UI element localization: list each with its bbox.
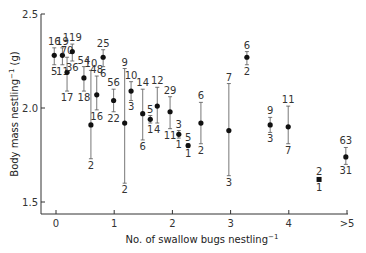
sample-size-bottom-label: 11 [164,130,177,141]
data-point-marker [186,143,191,148]
x-axis-label: No. of swallow bugs nestling−1 [126,233,279,245]
data-point-marker [111,98,116,103]
data-point-group: 62 [244,40,250,77]
x-axis-label-sup: −1 [268,233,278,241]
sample-size-top-label: 6 [198,90,204,101]
sample-size-top-label: 63 [339,135,352,146]
data-point-marker [70,49,75,54]
sample-size-top-label: 25 [97,38,110,49]
sample-size-bottom-label: 2 [244,66,250,77]
data-point-group: 51 [185,132,191,160]
sample-size-top-label: 119 [63,32,82,43]
sample-size-bottom-label: 3 [128,101,134,112]
y-axis-label: Body mass nestling−1 (g) [8,51,20,177]
data-point-group: 73 [226,72,232,188]
sample-size-top-label: 6 [244,40,250,51]
x-tick-label: 0 [53,218,59,229]
data-point-marker [81,75,86,80]
sample-size-bottom-label: 31 [339,165,352,176]
sample-size-top-label: 7 [226,72,232,83]
data-point-marker [140,111,145,116]
sample-size-top-label: 9 [121,57,127,68]
y-tick-label: 1.5 [22,197,38,208]
data-point-marker [122,120,127,125]
sample-size-bottom-label: 22 [107,113,120,124]
y-tick-label: 2.5 [22,9,38,20]
data-point-marker [286,124,291,129]
data-point-group: 103 [125,70,138,113]
data-point-marker [176,132,181,137]
data-point-marker [244,55,249,60]
sample-size-top-label: 12 [151,75,164,86]
sample-size-bottom-label: 2 [198,145,204,156]
data-point-marker [148,117,153,122]
data-point-marker [226,128,231,133]
data-point-group: 62 [198,90,204,155]
data-point-group: 51 [147,104,153,136]
x-tick-label: 2 [169,218,175,229]
sample-size-top-label: 56 [107,77,120,88]
x-tick-label: 4 [286,218,292,229]
sample-size-top-label: 2 [316,166,322,177]
sample-size-bottom-label: 1 [316,182,322,193]
data-point-marker [343,154,348,159]
sample-size-bottom-label: 2 [88,160,94,171]
data-point-marker [268,122,273,127]
sample-size-bottom-label: 3 [267,133,273,144]
y-axis-label-text: Body mass nestling [9,79,20,177]
data-point-group: 21 [316,166,322,194]
data-point-marker [128,88,133,93]
sample-size-bottom-label: 6 [140,141,146,152]
y-ticks: 1.52.02.5 [22,9,45,208]
data-point-group: 117 [282,94,295,156]
sample-size-bottom-label: 18 [78,92,91,103]
data-point-group: 2911 [164,85,177,141]
sample-size-bottom-label: 1 [176,139,182,150]
data-point-marker [317,177,322,182]
sample-size-top-label: 11 [282,94,295,105]
data-points: 1651911701711936541810248162565622921031… [48,32,352,195]
y-tick-label: 2.0 [22,103,38,114]
sample-size-bottom-label: 6 [100,68,106,79]
chart: 01234>5 1.52.02.5 No. of swallow bugs ne… [0,0,366,253]
data-point-marker [167,109,172,114]
data-point-marker [198,120,203,125]
sample-size-bottom-label: 2 [121,184,127,195]
data-point-marker [52,53,57,58]
data-point-group: 146 [136,77,149,152]
data-point-group: 93 [267,105,273,144]
sample-size-bottom-label: 3 [226,177,232,188]
sample-size-top-label: 5 [147,104,153,115]
sample-size-bottom-label: 17 [61,92,74,103]
data-point-marker [88,122,93,127]
x-tick-label: 3 [227,218,233,229]
axes [41,14,348,214]
data-point-marker [101,55,106,60]
x-ticks: 01234>5 [53,210,355,229]
data-point-group: 5622 [107,77,120,124]
sample-size-top-label: 14 [136,77,149,88]
y-axis-label-unit: (g) [9,51,20,68]
sample-size-bottom-label: 7 [285,145,291,156]
x-tick-label: >5 [340,218,355,229]
sample-size-bottom-label: 1 [147,124,153,135]
data-point-group: 6331 [339,135,352,176]
sample-size-bottom-label: 16 [90,111,103,122]
data-point-group: 31 [176,119,182,151]
sample-size-top-label: 9 [267,105,273,116]
sample-size-top-label: 5 [185,132,191,143]
sample-size-bottom-label: 1 [185,148,191,159]
x-tick-label: 1 [111,218,117,229]
y-axis-label-sup: −1 [8,69,16,79]
sample-size-top-label: 29 [164,85,177,96]
data-point-marker [94,92,99,97]
x-axis-label-text: No. of swallow bugs nestling [126,234,268,245]
sample-size-top-label: 3 [176,119,182,130]
data-point-marker [155,104,160,109]
sample-size-bottom-label: 4 [154,124,160,135]
